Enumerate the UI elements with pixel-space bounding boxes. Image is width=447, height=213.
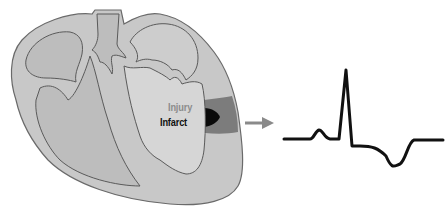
infarct-label: Infarct xyxy=(160,116,187,128)
ecg-waveform xyxy=(284,70,443,166)
mi-ecg-diagram: Injury Infarct xyxy=(0,0,447,213)
arrow-right-icon xyxy=(245,117,274,129)
injury-label: Injury xyxy=(168,101,192,113)
heart-illustration xyxy=(11,10,242,205)
